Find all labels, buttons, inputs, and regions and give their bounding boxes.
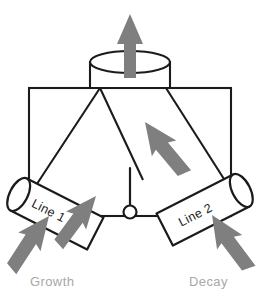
level-probe-bob	[124, 206, 137, 219]
caption-decay: Decay	[189, 274, 228, 289]
flow-diagram: Line 1 Line 2 Growth De	[0, 0, 260, 300]
diagram-canvas: Line 1 Line 2 Growth De	[0, 0, 260, 300]
caption-growth: Growth	[30, 274, 74, 289]
